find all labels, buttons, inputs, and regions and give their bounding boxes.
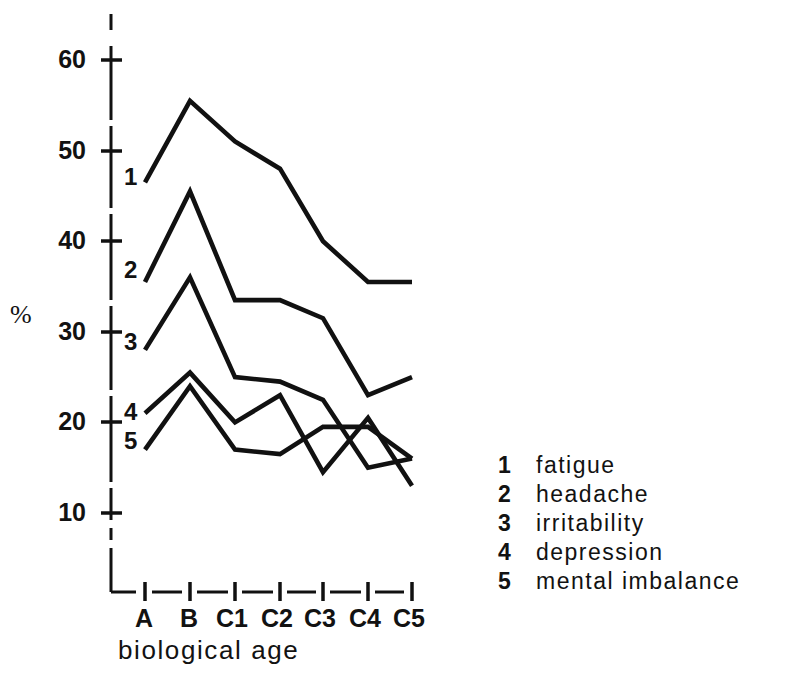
ytick-label-10: 10: [28, 498, 86, 527]
line-chart-figure: 60 50 40 30 20 10 % A B C1 C2 C3 C4 C5 b…: [0, 0, 470, 690]
series-marker-4: 4: [124, 398, 137, 426]
series-line-3: [145, 277, 412, 467]
x-axis-title: biological age: [118, 635, 299, 666]
xtick-label-c4: C4: [349, 604, 381, 633]
xtick-label-b: B: [180, 604, 198, 633]
legend-label-5: mental imbalance: [536, 568, 740, 595]
series-marker-3: 3: [124, 328, 137, 356]
ytick-label-50: 50: [28, 136, 86, 165]
x-axis-ticks: [145, 582, 412, 601]
legend-item-2: 2 headache: [498, 481, 788, 510]
legend-key-2: 2: [498, 481, 536, 508]
chart-page: 60 50 40 30 20 10 % A B C1 C2 C3 C4 C5 b…: [0, 0, 798, 690]
legend-key-1: 1: [498, 452, 536, 479]
legend-item-3: 3 irritability: [498, 510, 788, 539]
ytick-label-40: 40: [28, 226, 86, 255]
legend-label-4: depression: [536, 539, 664, 566]
legend-item-5: 5 mental imbalance: [498, 568, 788, 597]
xtick-label-c2: C2: [261, 604, 293, 633]
y-axis-title: %: [10, 300, 32, 330]
legend-item-1: 1 fatigue: [498, 452, 788, 481]
series-marker-2: 2: [124, 256, 137, 284]
series-line-2: [145, 191, 412, 395]
chart-legend: 1 fatigue 2 headache 3 irritability 4 de…: [498, 452, 788, 597]
legend-label-3: irritability: [536, 510, 645, 537]
legend-label-2: headache: [536, 481, 649, 508]
data-series-group: [145, 101, 412, 486]
series-marker-5: 5: [124, 427, 137, 455]
legend-key-3: 3: [498, 510, 536, 537]
xtick-label-a: A: [135, 604, 153, 633]
ytick-label-20: 20: [28, 407, 86, 436]
ytick-label-30: 30: [28, 317, 86, 346]
xtick-label-c5: C5: [393, 604, 425, 633]
legend-item-4: 4 depression: [498, 539, 788, 568]
legend-key-5: 5: [498, 568, 536, 595]
legend-label-1: fatigue: [536, 452, 616, 479]
series-line-1: [145, 101, 412, 282]
legend-key-4: 4: [498, 539, 536, 566]
series-marker-1: 1: [124, 163, 137, 191]
xtick-label-c3: C3: [304, 604, 336, 633]
ytick-label-60: 60: [28, 45, 86, 74]
xtick-label-c1: C1: [216, 604, 248, 633]
